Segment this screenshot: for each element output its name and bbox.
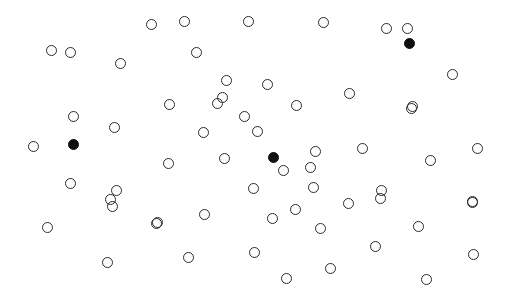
open-circle-marker xyxy=(447,69,458,80)
open-circle-marker xyxy=(344,88,355,99)
open-circle-marker xyxy=(325,263,336,274)
open-circle-marker xyxy=(262,79,273,90)
open-circle-marker xyxy=(467,197,478,208)
open-circle-marker xyxy=(164,99,175,110)
open-circle-marker xyxy=(308,182,319,193)
open-circle-marker xyxy=(281,273,292,284)
open-circle-marker xyxy=(115,58,126,69)
open-circle-marker xyxy=(107,201,118,212)
filled-circle-marker xyxy=(68,139,79,150)
open-circle-marker xyxy=(28,141,39,152)
open-circle-marker xyxy=(252,126,263,137)
open-circle-marker xyxy=(406,103,417,114)
open-circle-marker xyxy=(468,249,479,260)
open-circle-marker xyxy=(109,122,120,133)
open-circle-marker xyxy=(310,146,321,157)
open-circle-marker xyxy=(267,213,278,224)
open-circle-marker xyxy=(343,198,354,209)
open-circle-marker xyxy=(315,223,326,234)
open-circle-marker xyxy=(318,17,329,28)
open-circle-marker xyxy=(151,218,162,229)
open-circle-marker xyxy=(183,252,194,263)
open-circle-marker xyxy=(357,143,368,154)
open-circle-marker xyxy=(425,155,436,166)
open-circle-marker xyxy=(278,165,289,176)
open-circle-marker xyxy=(472,143,483,154)
open-circle-marker xyxy=(381,23,392,34)
open-circle-marker xyxy=(65,47,76,58)
open-circle-marker xyxy=(191,47,202,58)
open-circle-marker xyxy=(249,247,260,258)
open-circle-marker xyxy=(198,127,209,138)
open-circle-marker xyxy=(421,274,432,285)
open-circle-marker xyxy=(212,98,223,109)
image-canvas xyxy=(0,0,523,306)
filled-circle-marker xyxy=(404,38,415,49)
open-circle-marker xyxy=(65,178,76,189)
open-circle-marker xyxy=(102,257,113,268)
open-circle-marker xyxy=(402,23,413,34)
open-circle-marker xyxy=(146,19,157,30)
open-circle-marker xyxy=(42,222,53,233)
open-circle-marker xyxy=(291,100,302,111)
open-circle-marker xyxy=(375,193,386,204)
open-circle-marker xyxy=(248,183,259,194)
open-circle-marker xyxy=(413,221,424,232)
open-circle-marker xyxy=(179,16,190,27)
open-circle-marker xyxy=(163,158,174,169)
open-circle-marker xyxy=(46,45,57,56)
filled-circle-marker xyxy=(268,152,279,163)
open-circle-marker xyxy=(239,111,250,122)
open-circle-marker xyxy=(68,111,79,122)
open-circle-marker xyxy=(305,162,316,173)
open-circle-marker xyxy=(290,204,301,215)
open-circle-marker xyxy=(199,209,210,220)
scatter-plot-area xyxy=(0,0,523,306)
open-circle-marker xyxy=(219,153,230,164)
open-circle-marker xyxy=(243,16,254,27)
open-circle-marker xyxy=(221,75,232,86)
open-circle-marker xyxy=(370,241,381,252)
